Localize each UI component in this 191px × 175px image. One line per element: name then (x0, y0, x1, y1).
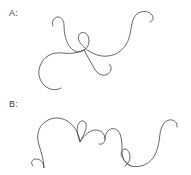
curve-b-path (32, 118, 178, 168)
curve-b-figure (0, 0, 191, 175)
drawing-canvas: A: B: (0, 0, 191, 175)
